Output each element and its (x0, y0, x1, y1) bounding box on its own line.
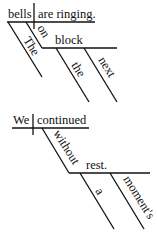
object-word: block (55, 33, 84, 47)
object-adjective-word: next (95, 54, 119, 80)
preposition-word: on (34, 22, 53, 41)
predicate-word: are ringing. (38, 7, 96, 21)
sentence-diagrams: bells are ringing. The on block the next… (0, 0, 157, 243)
predicate-word: continued (37, 113, 87, 127)
subject-word: bells (8, 7, 32, 21)
object-possessive-word: moment's (120, 173, 157, 221)
object-article-word: a (92, 185, 107, 198)
article-word: The (20, 34, 42, 58)
object-article-word: the (68, 59, 88, 80)
subject-word: We (13, 113, 30, 127)
object-word: rest. (86, 158, 107, 172)
object-article-slant-line (80, 173, 114, 229)
diagram-1: bells are ringing. The on block the next (7, 3, 119, 102)
diagram-2: We continued without rest. a moment's (12, 113, 157, 229)
preposition-word: without (50, 127, 82, 167)
object-article-slant-line (56, 48, 89, 102)
